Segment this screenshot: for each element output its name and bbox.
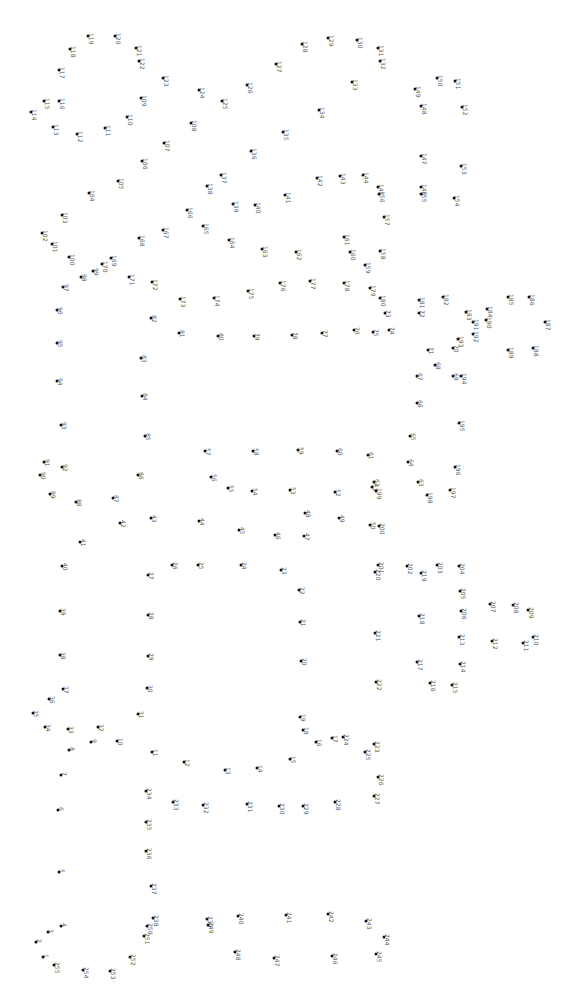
dot-number-label: 151: [455, 78, 461, 89]
dot-number-label: 237: [151, 883, 157, 894]
dot-number-label: 196: [455, 464, 461, 475]
dot-number-label: 137: [221, 172, 227, 183]
dot-number-label: 75: [373, 329, 379, 337]
dot-number-label: 216: [430, 680, 436, 691]
dot-number-label: 91: [44, 459, 50, 467]
dot-number-label: 96: [57, 307, 63, 315]
dot-number-label: 121: [136, 45, 142, 56]
dot-number-label: 206: [461, 608, 467, 619]
dot-number-label: 190: [486, 317, 492, 328]
dot-number-label: 66: [417, 400, 423, 408]
dot-number-label: 73: [385, 310, 391, 318]
dot-number-label: 6: [58, 807, 64, 811]
dot-number-label: 191: [473, 319, 479, 330]
dot-number-label: 21: [300, 619, 306, 627]
dot-number-label: 192: [473, 331, 479, 342]
dot-number-label: 125: [222, 98, 228, 109]
dot-number-label: 178: [344, 280, 350, 291]
dot-number-label: 143: [340, 173, 346, 184]
dot-number-label: 158: [380, 248, 386, 259]
dot-number-label: 251: [144, 933, 150, 944]
dot-number-label: 10: [117, 738, 123, 746]
dot-number-label: 49: [339, 515, 345, 523]
dot-number-label: 29: [148, 653, 154, 661]
dot-number-label: 246: [332, 953, 338, 964]
dot-number-label: 99: [93, 268, 99, 276]
dot-number-label: 15: [290, 756, 296, 764]
dot-number-label: 142: [317, 175, 323, 186]
dot-number-label: 224: [343, 734, 349, 745]
dot-number-label: 159: [365, 262, 371, 273]
dot-number-label: 94: [57, 378, 63, 386]
dot-number-label: 106: [142, 158, 148, 169]
dot-number-label: 149: [415, 86, 421, 97]
dot-number-label: 168: [139, 235, 145, 246]
dot-number-label: 69: [453, 373, 459, 381]
dot-number-label: 101: [52, 241, 58, 252]
dot-number-label: 131: [378, 45, 384, 56]
dot-number-label: 43: [151, 515, 157, 523]
dot-number-label: 242: [328, 911, 334, 922]
dot-number-label: 133: [352, 79, 358, 90]
dot-number-label: 169: [111, 255, 117, 266]
dot-number-label: 221: [375, 630, 381, 641]
dot-number-label: 115: [44, 98, 50, 109]
dot-number-label: 162: [296, 249, 302, 260]
dot-number-label: 80: [218, 333, 224, 341]
dot-number-label: 210: [533, 634, 539, 645]
dot-number-label: 235: [146, 819, 152, 830]
dot-number-label: 39: [60, 608, 66, 616]
dot-number-label: 110: [127, 114, 133, 125]
dot-number-label: 127: [276, 61, 282, 72]
dot-number-label: 177: [310, 278, 316, 289]
dot-number-label: 81: [179, 330, 185, 338]
dot-number-label: 132: [380, 58, 386, 69]
dot-number-label: 228: [335, 799, 341, 810]
dot-number-label: 199: [376, 488, 382, 499]
dot-number-label: 222: [376, 679, 382, 690]
dot-number-label: 200: [379, 523, 385, 534]
dot-number-label: 209: [528, 607, 534, 618]
dot-number-label: 180: [380, 295, 386, 306]
dot-number-label: 61: [368, 452, 374, 460]
dot-number-label: 27: [148, 572, 154, 580]
dot-number-label: 53: [290, 487, 296, 495]
dot-number-label: 41: [80, 539, 86, 547]
dot-number-label: 181: [419, 297, 425, 308]
dot-number-label: 62: [374, 479, 380, 487]
dot-number-label: 87: [113, 495, 119, 503]
dot-number-label: 112: [77, 131, 83, 142]
dot-number-label: 195: [459, 420, 465, 431]
dot-number-label: 84: [142, 393, 148, 401]
dot-number-label: 12: [184, 759, 190, 767]
dot-number-label: 232: [203, 802, 209, 813]
dot-number-label: 33: [68, 726, 74, 734]
dot-number-label: 46: [275, 532, 281, 540]
dot-number-label: 16: [316, 739, 322, 747]
dot-number-label: 215: [452, 682, 458, 693]
dot-number-label: 77: [322, 330, 328, 338]
dot-number-label: 139: [233, 201, 239, 212]
dot-number-label: 20: [301, 658, 307, 666]
dot-number-label: 227: [374, 793, 380, 804]
dot-number-label: 9: [91, 739, 97, 743]
dot-number-label: 129: [328, 35, 334, 46]
dot-number-label: 253: [110, 968, 116, 979]
dot-number-label: 245: [376, 951, 382, 962]
dot-number-label: 135: [283, 129, 289, 140]
dot-number-label: 114: [31, 109, 37, 120]
dot-number-label: 231: [247, 801, 253, 812]
dot-number-label: 76: [354, 327, 360, 335]
dot-number-label: 40: [62, 563, 68, 571]
dot-number-label: 213: [459, 634, 465, 645]
dot-number-label: 136: [251, 148, 257, 159]
dot-number-label: 28: [148, 612, 154, 620]
dot-number-label: 203: [437, 562, 443, 573]
dot-number-label: 48: [305, 510, 311, 518]
dot-number-label: 241: [286, 912, 292, 923]
dot-number-label: 252: [130, 954, 136, 965]
dot-number-label: 148: [421, 103, 427, 114]
dot-number-label: 198: [427, 492, 433, 503]
dot-number-label: 54: [252, 488, 258, 496]
dot-number-label: 170: [102, 261, 108, 272]
